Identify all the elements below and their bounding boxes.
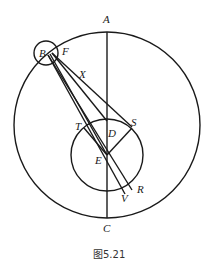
line-b-v	[48, 55, 125, 194]
label-s: S	[131, 116, 137, 128]
label-e: E	[94, 154, 102, 166]
label-a: A	[102, 13, 110, 25]
label-x: X	[78, 68, 87, 80]
line-b-s	[52, 53, 132, 127]
geometry-diagram: A B F X T D S E R V C 图5.21	[0, 0, 213, 260]
label-b: B	[39, 47, 46, 59]
label-f: F	[61, 45, 69, 57]
label-t: T	[75, 120, 82, 132]
label-c: C	[103, 222, 111, 234]
label-r: R	[136, 183, 144, 195]
figure-caption: 图5.21	[93, 249, 125, 260]
line-b-r	[48, 55, 132, 190]
label-v: V	[121, 192, 129, 204]
label-d: D	[107, 127, 116, 139]
